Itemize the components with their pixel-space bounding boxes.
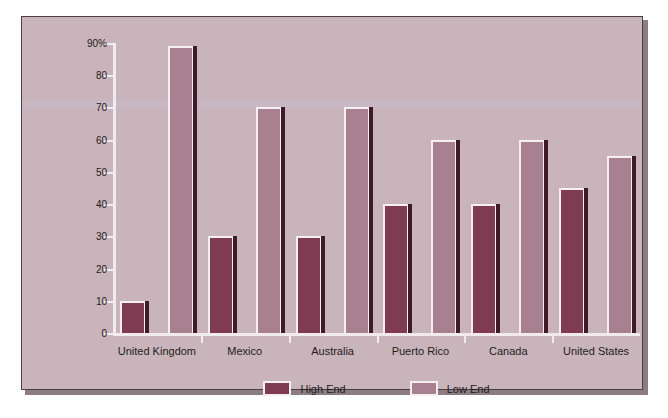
legend-swatch (410, 381, 438, 396)
y-tick-label: 10 (96, 295, 107, 306)
x-group-separator (552, 335, 554, 343)
bar (168, 46, 194, 333)
legend-label: Low End (447, 383, 490, 395)
legend-swatch (263, 381, 291, 396)
bar (471, 204, 497, 333)
category-label: United Kingdom (118, 345, 196, 357)
category-label: Canada (489, 345, 528, 357)
y-tick-label: 20 (96, 263, 107, 274)
bar (607, 156, 633, 333)
y-tick-label: 70 (96, 102, 107, 113)
x-group-separator (464, 335, 466, 343)
y-tick-label: 60 (96, 134, 107, 145)
legend-label: High End (300, 383, 345, 395)
bar (559, 188, 585, 333)
y-axis-line (113, 43, 116, 333)
x-group-separator (377, 335, 379, 343)
y-tick-label: 80 (96, 70, 107, 81)
x-group-separator (289, 335, 291, 343)
chart-figure: 0102030405060708090% United KingdomMexic… (0, 0, 668, 418)
legend-item[interactable]: High End (263, 381, 345, 396)
legend-item[interactable]: Low End (410, 381, 490, 396)
chart-frame: 0102030405060708090% United KingdomMexic… (21, 16, 643, 390)
category-label: United States (563, 345, 629, 357)
bar (296, 236, 322, 333)
plot-area: 0102030405060708090% United KingdomMexic… (113, 43, 640, 333)
y-tick-label: 30 (96, 231, 107, 242)
bar (431, 140, 457, 333)
chart-legend: High EndLow End (113, 381, 640, 396)
y-tick-label: 50 (96, 166, 107, 177)
y-tick-label: 90% (87, 38, 107, 49)
category-label: Australia (311, 345, 354, 357)
bar (344, 107, 370, 333)
bar (208, 236, 234, 333)
y-tick-label: 0 (101, 328, 107, 339)
y-tick-label: 40 (96, 199, 107, 210)
bar (256, 107, 282, 333)
bar (383, 204, 409, 333)
x-group-separator (201, 335, 203, 343)
bar (519, 140, 545, 333)
category-label: Mexico (227, 345, 262, 357)
bar (120, 301, 146, 333)
category-label: Puerto Rico (392, 345, 449, 357)
